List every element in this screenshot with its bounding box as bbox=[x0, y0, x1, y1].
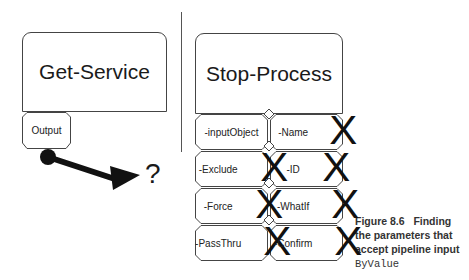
stop-process-label: Stop-Process bbox=[206, 62, 332, 86]
unknown-target-question-mark: ? bbox=[145, 158, 161, 190]
output-port-label: Output bbox=[31, 125, 61, 136]
cross-mark-icon: X bbox=[329, 110, 357, 150]
param-label: -PassThru bbox=[195, 238, 241, 249]
param-label: -ID bbox=[286, 164, 299, 175]
cross-mark-icon: X bbox=[260, 147, 288, 187]
section-divider bbox=[181, 12, 182, 152]
param-label: -Name bbox=[278, 127, 308, 138]
cross-mark-icon: X bbox=[322, 147, 350, 187]
param-force: -Force X bbox=[195, 188, 268, 224]
figure-number: Figure 8.6 bbox=[355, 215, 405, 227]
param-label: -Force bbox=[204, 201, 233, 212]
cross-mark-icon: X bbox=[335, 221, 363, 261]
figure-caption: Figure 8.6 Finding the parameters that a… bbox=[355, 214, 469, 271]
param-label: -Confirm bbox=[274, 238, 312, 249]
param-passthru: -PassThru X bbox=[195, 225, 268, 261]
cross-mark-icon: X bbox=[332, 184, 360, 224]
param-label: -WhatIf bbox=[277, 201, 309, 212]
param-label: -inputObject bbox=[205, 127, 259, 138]
param-label: -Exclude bbox=[199, 164, 238, 175]
parameter-grid: -inputObject -Name X -Exclude X -ID X -F… bbox=[195, 114, 343, 260]
stop-process-command-box: Stop-Process bbox=[195, 33, 343, 114]
param-inputobject: -inputObject bbox=[195, 114, 268, 150]
